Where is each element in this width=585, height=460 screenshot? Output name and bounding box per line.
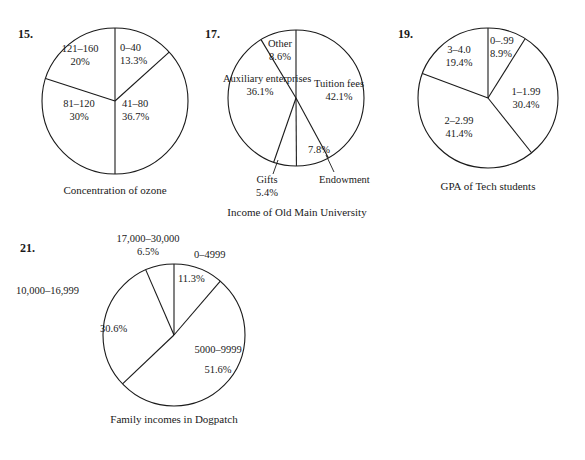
slice-label-income-17000-30000-name: 17,000–30,000 bbox=[98, 233, 198, 246]
slice-label-41-80: 41–80 36.7% bbox=[122, 98, 184, 123]
slice-label-41-80-name: 41–80 bbox=[122, 98, 184, 111]
slice-label-gpa-1-199-name: 1–1.99 bbox=[498, 86, 554, 99]
slice-label-income-0-4999-name: 0–4999 bbox=[194, 249, 266, 262]
slice-label-income-5000-9999-percent: 51.6% bbox=[178, 360, 258, 380]
slice-label-gpa-3-40-name: 3–4.0 bbox=[432, 44, 486, 57]
slice-label-endowment-name-wrap: Endowment bbox=[319, 174, 399, 187]
slice-label-other: Other 8.6% bbox=[255, 38, 305, 63]
slice-label-121-160: 121–160 20% bbox=[48, 43, 112, 68]
slice-label-endowment-name: Endowment bbox=[319, 174, 399, 187]
slice-label-81-120-name: 81–120 bbox=[48, 98, 110, 111]
slice-label-gifts: Gifts 5.4% bbox=[237, 174, 297, 199]
slice-label-income-17000-30000: 17,000–30,000 6.5% bbox=[98, 233, 198, 258]
slice-label-41-80-percent: 36.7% bbox=[122, 111, 184, 124]
slice-label-gifts-percent: 5.4% bbox=[237, 187, 297, 200]
figure-17: 17. Tuition fees 42.1% 7.8% Endowment Gi… bbox=[195, 0, 405, 230]
slice-label-121-160-name: 121–160 bbox=[48, 43, 112, 56]
figure-21-caption: Family incomes in Dogpatch bbox=[94, 413, 254, 425]
slice-label-income-0-4999-percent-wrap: 11.3% bbox=[178, 273, 226, 286]
slice-label-endowment: 7.8% bbox=[308, 144, 352, 157]
slice-label-gpa-2-299-name: 2–2.99 bbox=[430, 115, 488, 128]
slice-label-other-percent: 8.6% bbox=[255, 51, 305, 64]
slice-label-gifts-name: Gifts bbox=[237, 174, 297, 187]
slice-label-tuition-fees: Tuition fees 42.1% bbox=[301, 78, 377, 103]
slice-label-auxiliary-percent: 36.1% bbox=[223, 85, 297, 98]
slice-label-income-10000-16999-name-wrap: 10,000–16,999 bbox=[16, 285, 114, 298]
slice-label-gpa-1-199-percent: 30.4% bbox=[498, 99, 554, 112]
slice-label-income-5000-9999: 5000–9999 51.6% bbox=[178, 340, 258, 380]
slice-label-endowment-percent: 7.8% bbox=[308, 144, 352, 157]
slice-label-tuition-fees-percent: 42.1% bbox=[301, 91, 377, 104]
figure-21: 21. 0–4999 11.3% 5000–9999 51.6% 10,000–… bbox=[0, 225, 330, 460]
slice-label-income-0-4999-name-wrap: 0–4999 bbox=[194, 249, 266, 262]
slice-label-gpa-3-40: 3–4.0 19.4% bbox=[432, 44, 486, 69]
slice-label-auxiliary-enterprises: Auxiliary enterprises 36.1% bbox=[223, 72, 297, 98]
figure-17-caption: Income of Old Main University bbox=[207, 206, 387, 218]
slice-label-tuition-fees-name: Tuition fees bbox=[301, 78, 377, 91]
slice-label-121-160-percent: 20% bbox=[48, 56, 112, 69]
slice-label-gpa-3-40-percent: 19.4% bbox=[432, 57, 486, 70]
slice-label-income-10000-16999-percent: 30.6% bbox=[100, 323, 148, 336]
slice-label-gpa-1-199: 1–1.99 30.4% bbox=[498, 86, 554, 111]
slice-label-81-120: 81–120 30% bbox=[48, 98, 110, 123]
figure-15-caption: Concentration of ozone bbox=[40, 184, 190, 196]
slice-label-income-0-4999-percent: 11.3% bbox=[178, 273, 226, 286]
slice-label-auxiliary-line1: Auxiliary enterprises bbox=[223, 72, 297, 85]
pie-chart-university-income bbox=[195, 0, 405, 230]
slice-label-gpa-0-99-name: 0–.99 bbox=[490, 35, 536, 48]
leader-line-endowment bbox=[326, 155, 334, 172]
slice-label-income-10000-16999-percent-wrap: 30.6% bbox=[100, 323, 148, 336]
slice-label-81-120-percent: 30% bbox=[48, 111, 110, 124]
slice-label-0-40-name: 0–40 bbox=[120, 42, 180, 55]
slice-label-income-10000-16999-name: 10,000–16,999 bbox=[16, 285, 114, 298]
slice-label-income-17000-30000-percent: 6.5% bbox=[98, 246, 198, 259]
slice-label-gpa-0-99-percent: 8.9% bbox=[490, 48, 536, 61]
figure-15: 15. 0–40 13.3% 41–80 36.7% 81–120 30% 12… bbox=[0, 0, 200, 210]
figure-19: 19. 0–.99 8.9% 1–1.99 30.4% 2–2.99 41.4%… bbox=[390, 0, 585, 210]
figure-19-caption: GPA of Tech students bbox=[418, 180, 558, 192]
slice-label-other-name: Other bbox=[255, 38, 305, 51]
pie-chart-gpa bbox=[390, 0, 585, 200]
slice-label-0-40: 0–40 13.3% bbox=[120, 42, 180, 67]
slice-label-gpa-2-299-percent: 41.4% bbox=[430, 128, 488, 141]
slice-label-income-5000-9999-name: 5000–9999 bbox=[178, 340, 258, 360]
slice-label-gpa-0-99: 0–.99 8.9% bbox=[490, 35, 536, 60]
slice-label-gpa-2-299: 2–2.99 41.4% bbox=[430, 115, 488, 140]
slice-label-0-40-percent: 13.3% bbox=[120, 55, 180, 68]
